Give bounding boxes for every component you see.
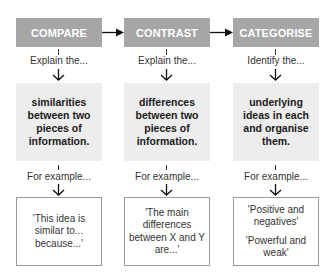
focus-box: differences between two pieces of inform…: [124, 83, 210, 161]
focus-box: similarities between two pieces of infor…: [16, 83, 102, 161]
connector-line: [166, 165, 167, 170]
example-label: For example...: [223, 171, 329, 182]
example-text: 'Positive and negatives': [236, 204, 316, 229]
prompt-label: Identify the...: [223, 55, 329, 66]
example-label: For example...: [114, 171, 220, 182]
header-categorise: CATEGORISE: [233, 18, 319, 47]
arrow-right-icon: [101, 28, 125, 37]
arrow-down-icon: [269, 184, 282, 196]
arrow-down-icon: [269, 69, 282, 81]
arrow-down-icon: [52, 69, 65, 81]
example-label: For example...: [6, 171, 112, 182]
arrow-right-icon: [210, 28, 234, 37]
column-contrast: CONTRAST Explain the... differences betw…: [124, 0, 210, 280]
example-box: 'The main differences between X and Y ar…: [124, 197, 210, 266]
arrow-down-icon: [160, 184, 173, 196]
prompt-label: Explain the...: [114, 55, 220, 66]
connector-line: [58, 165, 59, 170]
prompt-label: Explain the...: [6, 55, 112, 66]
arrow-down-icon: [160, 69, 173, 81]
example-text: 'This idea is similar to... because...': [19, 213, 99, 251]
column-categorise: CATEGORISE Identify the... underlying id…: [233, 0, 319, 280]
arrow-down-icon: [52, 184, 65, 196]
example-box: 'This idea is similar to... because...': [16, 197, 102, 266]
example-box: 'Positive and negatives' 'Powerful and w…: [233, 197, 319, 266]
header-contrast: CONTRAST: [124, 18, 210, 47]
connector-line: [275, 165, 276, 170]
example-text: 'The main differences between X and Y ar…: [127, 207, 207, 257]
focus-box: underlying ideas in each and organise th…: [233, 83, 319, 161]
column-compare: COMPARE Explain the... similarities betw…: [16, 0, 102, 280]
header-compare: COMPARE: [16, 18, 102, 47]
example-text: 'Powerful and weak': [236, 235, 316, 260]
